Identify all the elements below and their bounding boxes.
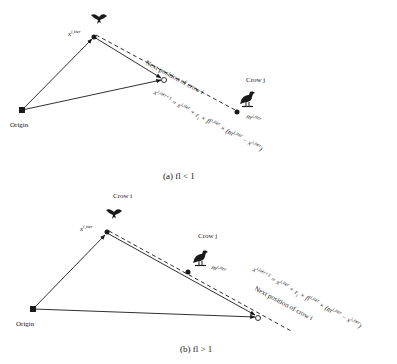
next-position-label-b: Next position of crow i bbox=[253, 285, 314, 323]
memory-point-b bbox=[186, 270, 191, 275]
panel-a: Origin xi,iter mj,iter Crow j Next posit… bbox=[10, 14, 265, 181]
vector-origin-to-current-a bbox=[22, 39, 92, 110]
memory-point-a bbox=[235, 110, 240, 115]
crow-j-label-b: Crow j bbox=[198, 232, 217, 240]
next-position-point-b bbox=[256, 316, 261, 321]
crow-i-flying-icon-a bbox=[91, 14, 107, 24]
crow-j-perched-icon-b bbox=[193, 251, 208, 266]
next-position-point-a bbox=[162, 78, 167, 83]
next-position-label-a: Next position of crow i bbox=[144, 59, 205, 97]
current-position-point-a bbox=[92, 35, 97, 40]
caption-a: (a) fl < 1 bbox=[163, 171, 195, 181]
current-position-point-b bbox=[105, 230, 110, 235]
vector-origin-to-current-b bbox=[33, 235, 105, 309]
current-position-label-b: xi,iter bbox=[79, 224, 93, 233]
crow-j-perched-icon-a bbox=[240, 92, 255, 107]
crow-i-flying-icon-b bbox=[106, 209, 122, 219]
memory-label-b: mj,iter bbox=[210, 262, 227, 275]
vector-current-to-next-b bbox=[107, 233, 255, 315]
origin-label-a: Origin bbox=[10, 121, 29, 129]
dashed-direction-line-b bbox=[109, 231, 293, 332]
current-position-label-a: xi,iter bbox=[67, 29, 81, 38]
memory-label-a: mj,iter bbox=[245, 111, 262, 124]
vector-origin-to-next-b bbox=[33, 309, 255, 317]
panel-b: Origin xi,iter Crow i mj,iter Crow j Nex… bbox=[16, 192, 364, 354]
caption-b: (b) fl > 1 bbox=[180, 344, 212, 354]
crow-search-diagram: Origin xi,iter mj,iter Crow j Next posit… bbox=[0, 0, 397, 364]
vector-origin-to-next-a bbox=[22, 80, 161, 110]
crow-j-label-a: Crow j bbox=[246, 76, 265, 84]
origin-label-b: Origin bbox=[16, 320, 35, 328]
crow-i-label-b: Crow i bbox=[113, 192, 132, 200]
vector-current-to-next-a bbox=[94, 37, 161, 78]
